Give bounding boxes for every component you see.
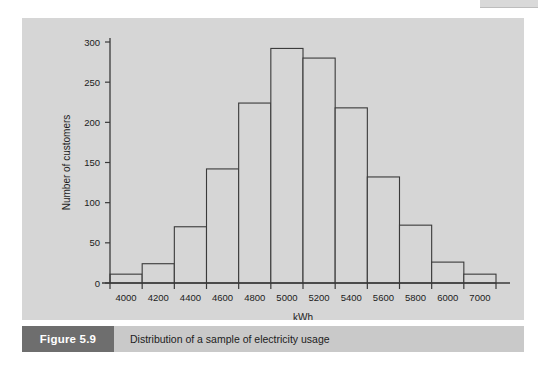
histogram-bar (400, 225, 432, 283)
histogram-bar (110, 274, 142, 283)
x-ticks-group: 4000420044004600480050005200540056005800… (110, 283, 496, 303)
y-axis-label: Number of customers (61, 115, 72, 211)
figure-number-tag: Figure 5.9 (22, 326, 114, 352)
figure-caption-text: Distribution of a sample of electricity … (114, 326, 524, 352)
histogram-bar (303, 58, 335, 283)
y-tick-label: 200 (84, 117, 100, 128)
page-edge-artifact (480, 0, 538, 8)
y-tick-label: 150 (84, 157, 100, 168)
x-tick-label: 4200 (148, 292, 169, 303)
y-tick-label: 0 (95, 278, 100, 289)
x-tick-label: 5200 (309, 292, 330, 303)
x-tick-label: 4000 (116, 292, 137, 303)
histogram-bar (367, 177, 399, 283)
x-tick-label: 4800 (244, 292, 265, 303)
histogram-bar (174, 227, 206, 283)
y-tick-label: 50 (89, 237, 100, 248)
y-tick-label: 300 (84, 37, 100, 48)
histogram-bar (464, 274, 496, 283)
figure-page: 0501001502002503004000420044004600480050… (0, 0, 550, 383)
y-ticks-group: 050100150200250300 (84, 37, 110, 289)
histogram-bar (335, 108, 367, 283)
x-tick-label: 6000 (437, 292, 458, 303)
x-tick-label: 5600 (373, 292, 394, 303)
histogram-svg: 0501001502002503004000420044004600480050… (22, 18, 524, 320)
x-axis-label: kWh (293, 312, 313, 320)
x-tick-label: 7000 (469, 292, 490, 303)
x-tick-label: 4600 (212, 292, 233, 303)
histogram-bar (271, 48, 303, 283)
bars-group (110, 48, 496, 283)
figure-panel: 0501001502002503004000420044004600480050… (22, 18, 524, 320)
x-tick-label: 5400 (341, 292, 362, 303)
y-tick-label: 100 (84, 197, 100, 208)
x-tick-label: 4400 (180, 292, 201, 303)
histogram-bar (432, 262, 464, 283)
histogram-bar (239, 103, 271, 283)
y-tick-label: 250 (84, 77, 100, 88)
figure-caption-bar: Figure 5.9 Distribution of a sample of e… (22, 326, 524, 352)
x-tick-label: 5800 (405, 292, 426, 303)
x-tick-label: 5000 (276, 292, 297, 303)
histogram-bar (142, 264, 174, 283)
histogram-bar (207, 169, 239, 283)
histogram-chart: 0501001502002503004000420044004600480050… (22, 18, 524, 320)
